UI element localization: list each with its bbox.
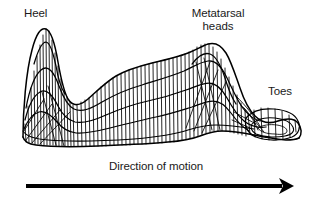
label-metatarsal-heads: Metatarsalheads bbox=[176, 7, 260, 32]
label-heel: Heel bbox=[24, 7, 47, 20]
label-toes: Toes bbox=[268, 85, 292, 98]
label-metatarsal-heads-line2: heads bbox=[176, 20, 260, 33]
pressure-distribution-figure: Heel Metatarsalheads Toes Direction of m… bbox=[0, 0, 312, 199]
label-direction-of-motion: Direction of motion bbox=[0, 160, 312, 173]
direction-arrow bbox=[26, 178, 294, 194]
label-metatarsal-heads-line1: Metatarsal bbox=[192, 7, 245, 19]
